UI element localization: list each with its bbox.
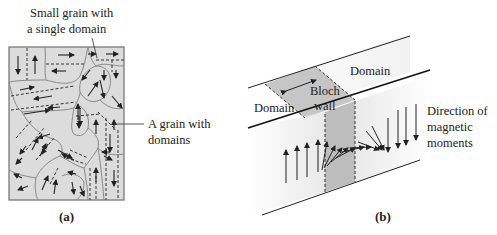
label-moments-line1: Direction of bbox=[427, 104, 488, 119]
callout-grain-with-domains-line2: domains bbox=[148, 133, 190, 148]
label-domain-right: Domain bbox=[350, 64, 390, 79]
callout-small-grain-line1: Small grain with bbox=[30, 6, 113, 21]
polycrystal-box bbox=[9, 38, 144, 200]
label-bloch-wall-line2: wall bbox=[314, 99, 336, 114]
panel-b-graphic bbox=[248, 34, 430, 215]
callout-grain-with-domains-line1: A grain with bbox=[148, 117, 211, 132]
label-moments-line3: moments bbox=[427, 136, 473, 151]
label-domain-left: Domain bbox=[254, 101, 294, 116]
callout-small-grain-line2: a single domain bbox=[27, 22, 106, 37]
label-bloch-wall-line1: Bloch bbox=[310, 84, 340, 99]
caption-panel-a: (a) bbox=[59, 209, 74, 225]
caption-panel-b: (b) bbox=[375, 209, 391, 225]
label-moments-line2: magnetic bbox=[427, 120, 473, 135]
